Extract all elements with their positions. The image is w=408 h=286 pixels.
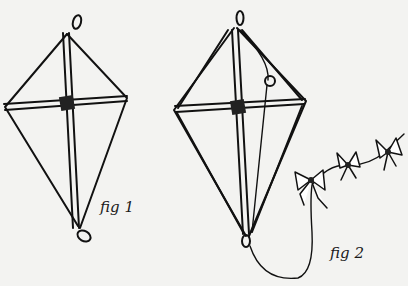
fig1-label: fig 1 — [100, 198, 134, 216]
kite-fig2 — [174, 11, 404, 278]
kite-illustration: fig 1 fig 2 — [0, 0, 408, 286]
fig2-label: fig 2 — [330, 244, 364, 262]
